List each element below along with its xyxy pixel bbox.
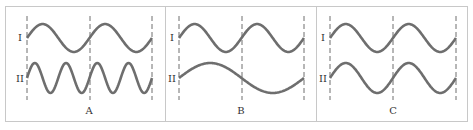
wave-label-i: I [321,32,325,43]
wave-label-i: I [18,32,22,43]
wave-label-ii: II [16,73,24,84]
wave-label-ii: II [168,73,176,84]
panel-c: I II C [319,16,456,116]
wave-figure: I II A I II B I II C [0,0,473,130]
wave-label-ii: II [319,73,327,84]
wave-label-i: I [170,32,174,43]
panel-a: I II A [16,16,152,116]
panel-label: A [84,105,93,116]
panel-b: I II B [168,16,304,116]
panel-label: C [389,105,397,116]
panel-label: B [237,105,244,116]
